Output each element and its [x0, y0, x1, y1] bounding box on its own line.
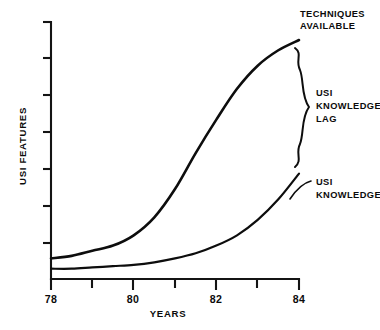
- annotation-knowledge-line1: USI: [316, 177, 333, 187]
- x-tick-label-78: 78: [45, 293, 57, 305]
- annotation-lag-line1: USI: [316, 88, 333, 98]
- annotation-lag-line2: KNOWLEDGE: [316, 101, 380, 111]
- annotation-techniques-line2: AVAILABLE: [300, 21, 355, 31]
- x-axis-title: YEARS: [150, 308, 187, 319]
- y-axis-title: USI FEATURES: [17, 107, 28, 185]
- chart-canvas: USI FEATURES 78 80 82 84 YEARS: [0, 0, 380, 330]
- annotation-techniques-line1: TECHNIQUES: [300, 9, 365, 19]
- chart-figure: USI FEATURES 78 80 82 84 YEARS: [0, 0, 380, 330]
- x-tick-label-80: 80: [127, 293, 139, 305]
- annotation-knowledge-line2: KNOWLEDGE: [316, 190, 380, 200]
- annotation-lag-line3: LAG: [316, 114, 337, 124]
- x-tick-label-84: 84: [293, 293, 305, 305]
- x-tick-label-82: 82: [210, 293, 222, 305]
